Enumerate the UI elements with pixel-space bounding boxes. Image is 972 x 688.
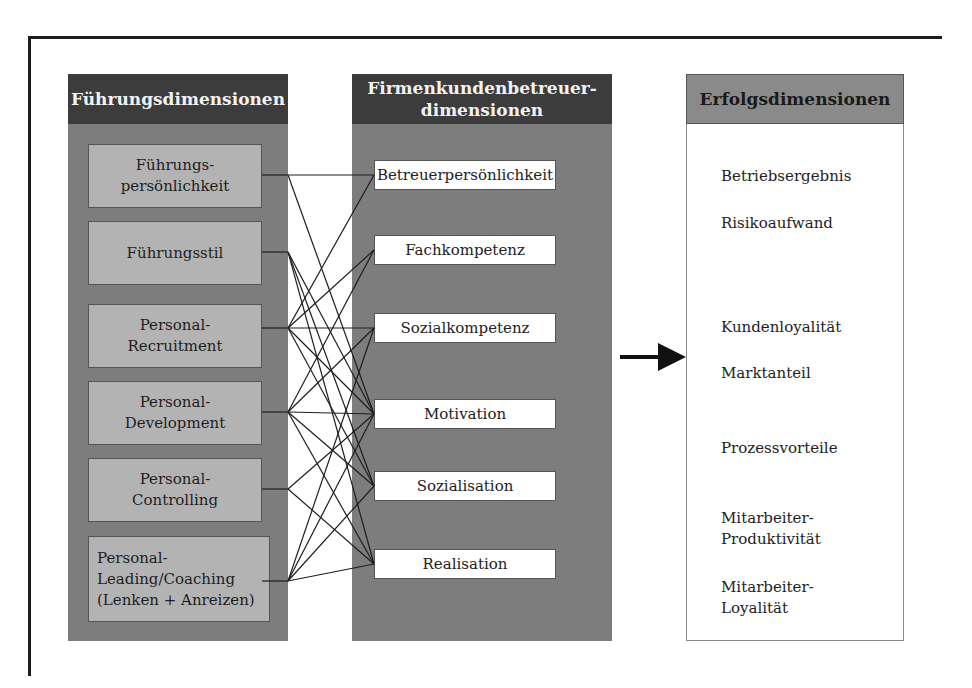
node-betreuerpersoenlichkeit: Betreuerpersönlichkeit (374, 160, 556, 190)
node-fachkompetenz: Fachkompetenz (374, 235, 556, 265)
node-motivation: Motivation (374, 399, 556, 429)
node-personal-recruitment: Personal-Recruitment (88, 304, 262, 368)
node-personal-development: Personal-Development (88, 381, 262, 445)
column-firmenkundenbetreuerdimensionen: Firmenkundenbetreuer-dimensionen Betreue… (352, 74, 612, 641)
column-title-firmenkundenbetreuerdimensionen: Firmenkundenbetreuer-dimensionen (352, 74, 612, 124)
arrow-right-icon (658, 343, 686, 371)
item-risikoaufwand: Risikoaufwand (721, 213, 833, 234)
item-betriebsergebnis: Betriebsergebnis (721, 166, 851, 187)
item-mitarbeiter-loyalitaet: Mitarbeiter-Loyalität (721, 577, 814, 619)
node-sozialkompetenz: Sozialkompetenz (374, 313, 556, 343)
frame-top-border (28, 36, 942, 39)
column-title-fuehrungsdimensionen: Führungsdimensionen (68, 74, 288, 124)
item-mitarbeiter-produktivitaet: Mitarbeiter-Produktivität (721, 508, 821, 550)
node-fuehrungsstil: Führungsstil (88, 221, 262, 285)
node-fuehrungspersoenlichkeit: Führungs-persönlichkeit (88, 144, 262, 208)
node-personal-leading-coaching: Personal-Leading/Coaching(Lenken + Anrei… (88, 536, 270, 622)
node-realisation: Realisation (374, 549, 556, 579)
frame-left-border (28, 36, 31, 676)
node-sozialisation: Sozialisation (374, 471, 556, 501)
node-personal-controlling: Personal-Controlling (88, 458, 262, 522)
arrow-shaft (620, 355, 662, 359)
item-kundenloyalitaet: Kundenloyalität (721, 317, 841, 338)
item-prozessvorteile: Prozessvorteile (721, 438, 838, 459)
column-title-erfolgsdimensionen: Erfolgsdimensionen (686, 74, 904, 124)
column-fuehrungsdimensionen: Führungsdimensionen Führungs-persönlichk… (68, 74, 288, 641)
column-erfolgsdimensionen: Erfolgsdimensionen Betriebsergebnis Risi… (686, 74, 904, 641)
item-marktanteil: Marktanteil (721, 363, 811, 384)
